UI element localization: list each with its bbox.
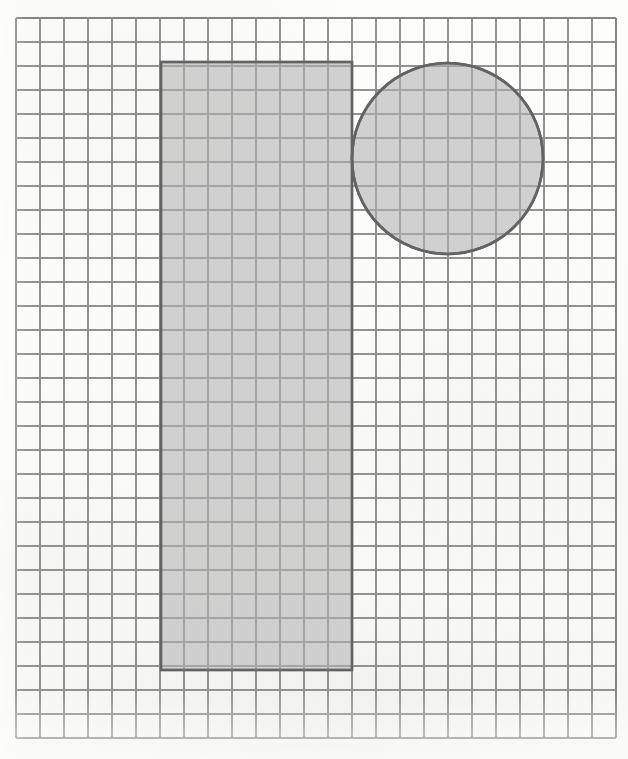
shape-layer bbox=[16, 18, 616, 738]
left-fade-overlay bbox=[0, 0, 26, 759]
figure-canvas: Shaded rectangle and circle on square gr… bbox=[0, 0, 628, 759]
bottom-fade-overlay bbox=[0, 690, 628, 759]
grid-figure: Shaded rectangle and circle on square gr… bbox=[0, 0, 628, 759]
